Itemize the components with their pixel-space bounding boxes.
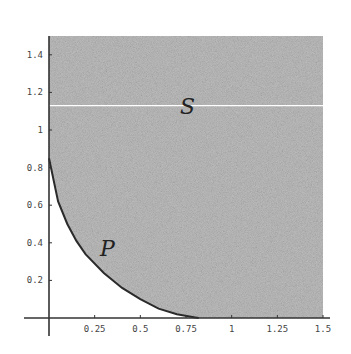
svg-text:0.5: 0.5 <box>132 324 148 334</box>
label-s: S <box>180 94 195 119</box>
svg-text:0.2: 0.2 <box>27 275 43 285</box>
svg-text:0.8: 0.8 <box>27 163 43 173</box>
shaded-region <box>49 36 323 318</box>
label-p: P <box>99 236 116 261</box>
svg-text:0.25: 0.25 <box>84 324 106 334</box>
svg-text:0.6: 0.6 <box>27 200 43 210</box>
svg-text:1: 1 <box>229 324 234 334</box>
svg-text:0.4: 0.4 <box>27 238 43 248</box>
svg-text:1.25: 1.25 <box>266 324 288 334</box>
svg-text:0.75: 0.75 <box>175 324 197 334</box>
svg-text:1.4: 1.4 <box>27 50 43 60</box>
svg-text:1.5: 1.5 <box>315 324 331 334</box>
svg-text:1.2: 1.2 <box>27 87 43 97</box>
svg-text:1: 1 <box>38 125 43 135</box>
chart: 0.250.50.7511.251.5 0.20.40.60.811.21.4 … <box>0 0 351 354</box>
